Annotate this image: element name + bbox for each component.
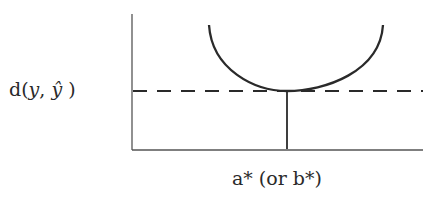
ylabel-yhat: ŷ <box>51 78 62 100</box>
y-axis-label: d(y, ŷ ) <box>9 78 76 100</box>
x-axis-label: a* (or b*) <box>232 167 322 189</box>
diagram-canvas <box>0 0 437 210</box>
ylabel-y: y <box>29 78 40 100</box>
ylabel-close: ) <box>62 78 75 100</box>
ylabel-sep: , <box>39 78 51 100</box>
u-curve <box>209 25 383 91</box>
ylabel-fn: d( <box>9 78 29 100</box>
